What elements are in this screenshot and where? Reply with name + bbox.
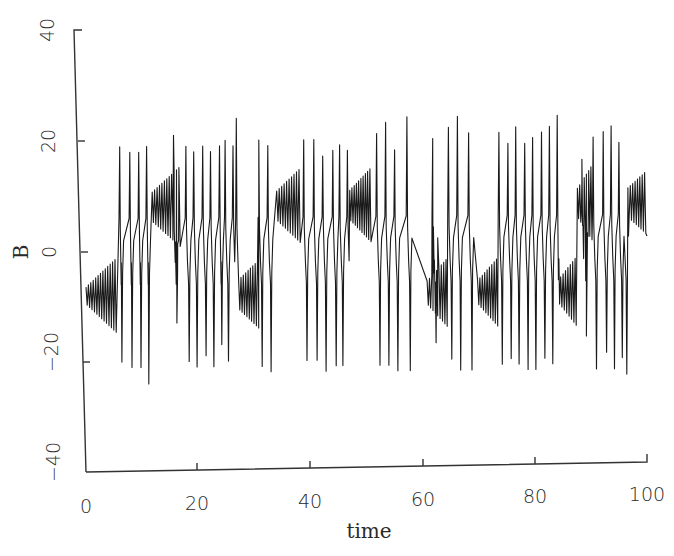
x-tick-label: 20 [185, 492, 209, 514]
x-tick-label: 60 [411, 488, 435, 510]
x-tick-label: 0 [80, 495, 92, 517]
y-tick-label: 40 [36, 18, 58, 42]
x-axis-title: time [346, 519, 391, 543]
y-axis-title: B [9, 245, 33, 260]
x-tick-label: 100 [629, 483, 665, 505]
y-tick-label: 20 [37, 129, 59, 153]
chart: 40 20 0 −20 −40 B 0 20 40 60 80 100 time [0, 0, 674, 556]
y-tick-label: −20 [40, 332, 62, 372]
y-tick-label: 0 [38, 246, 60, 258]
series-line-b [86, 115, 647, 384]
x-axis-line [86, 454, 647, 472]
x-tick-label: 40 [298, 490, 322, 512]
y-tick-label: −40 [42, 442, 64, 482]
plot-area [86, 115, 647, 384]
x-tick-labels: 0 20 40 60 80 100 [80, 483, 665, 517]
y-axis-line [74, 30, 86, 472]
y-axis [74, 30, 90, 472]
y-tick-labels: 40 20 0 −20 −40 [36, 18, 64, 482]
x-tick-label: 80 [523, 485, 547, 507]
x-axis [86, 454, 647, 472]
